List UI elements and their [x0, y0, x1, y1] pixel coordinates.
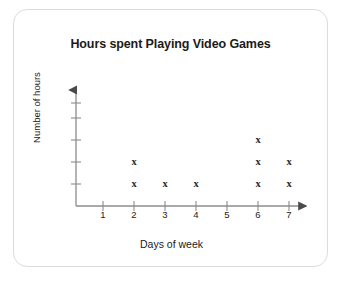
data-marker: x: [158, 177, 172, 191]
data-marker: x: [127, 155, 141, 169]
data-marker: x: [282, 177, 296, 191]
data-marker: x: [127, 177, 141, 191]
plot-area: Number of hours Days of week 1234567 xxx…: [14, 10, 329, 268]
x-tick-label-4: 4: [187, 209, 205, 220]
data-marker: x: [282, 155, 296, 169]
x-axis-label: Days of week: [14, 238, 329, 250]
data-marker: x: [251, 133, 265, 147]
data-marker: x: [251, 155, 265, 169]
axes-svg: [14, 10, 329, 268]
y-axis-label: Number of hours: [31, 63, 42, 153]
chart-card: Hours spent Playing Video Games: [13, 9, 328, 267]
x-tick-label-1: 1: [94, 209, 112, 220]
data-marker: x: [189, 177, 203, 191]
x-tick-label-5: 5: [218, 209, 236, 220]
x-tick-label-3: 3: [156, 209, 174, 220]
x-tick-label-2: 2: [125, 209, 143, 220]
x-tick-label-7: 7: [280, 209, 298, 220]
data-marker: x: [251, 177, 265, 191]
x-tick-label-6: 6: [249, 209, 267, 220]
